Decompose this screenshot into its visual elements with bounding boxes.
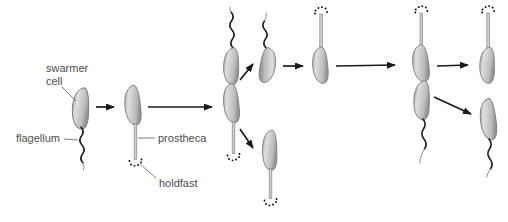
flagellum-tail xyxy=(83,163,84,170)
leader-flagellum xyxy=(64,139,78,140)
cell-body xyxy=(258,47,277,83)
label-prostheca: prostheca xyxy=(158,132,207,144)
predivisional-cell-stage xyxy=(222,7,240,161)
caulobacter-life-cycle-figure: swarmer cell flagellum prostheca holdfas… xyxy=(0,0,508,222)
attached-stalked-cell xyxy=(312,6,329,83)
flagellum-icon xyxy=(263,21,267,48)
callout-prostheca: prostheca xyxy=(138,132,207,144)
flagellum-icon xyxy=(230,12,234,48)
arrow-division2-swarmer xyxy=(434,97,471,114)
flagellum-icon xyxy=(488,139,492,169)
label-swarmer-cell-line1: swarmer xyxy=(46,62,89,74)
daughter-stalked-cell xyxy=(479,5,496,83)
flagellum-icon xyxy=(80,127,84,163)
cell-body xyxy=(71,87,91,130)
new-stalked-cell xyxy=(262,130,278,207)
flagellum-tail xyxy=(487,169,491,177)
leader-swarmer-cell xyxy=(62,87,76,101)
callout-flagellum: flagellum xyxy=(16,132,78,144)
arrow-division-stalked xyxy=(240,129,253,148)
cell-body xyxy=(479,47,496,84)
cell-body-top xyxy=(223,47,240,85)
arrow-division-swarmer xyxy=(240,64,253,80)
callout-holdfast: holdfast xyxy=(140,164,198,189)
prostheca-stalk xyxy=(420,13,423,46)
arrow-step-4 xyxy=(336,65,395,66)
cell-body xyxy=(312,47,329,84)
holdfast-icon xyxy=(314,6,328,14)
leader-holdfast xyxy=(140,164,156,178)
flagellum-icon xyxy=(422,119,426,149)
prostheca-stalk xyxy=(269,169,272,199)
holdfast-icon xyxy=(481,5,495,13)
prostheca-stalk xyxy=(134,124,137,160)
cell-body xyxy=(124,85,142,126)
prostheca-stalk xyxy=(320,14,323,48)
cell-body xyxy=(262,130,278,171)
prostheca-stalk xyxy=(487,13,490,48)
flagellum-tail xyxy=(230,7,231,12)
holdfast-icon xyxy=(414,5,428,13)
label-flagellum: flagellum xyxy=(16,132,60,144)
cell-body-bottom xyxy=(413,80,431,120)
daughter-swarmer-cell xyxy=(479,98,497,177)
stalked-cell-stage xyxy=(124,85,143,167)
holdfast-icon xyxy=(264,198,278,206)
life-cycle-diagram: swarmer cell flagellum prostheca holdfas… xyxy=(0,0,508,222)
label-holdfast: holdfast xyxy=(159,177,198,189)
cell-body xyxy=(479,98,497,140)
cell-body-top xyxy=(411,44,430,82)
released-swarmer-cell xyxy=(258,13,277,83)
flagellum-tail xyxy=(265,13,267,21)
predivisional-cell-stage-2 xyxy=(411,5,431,163)
cell-body-bottom xyxy=(222,83,240,124)
flagellum-tail xyxy=(420,149,425,163)
arrow-division2-stalked xyxy=(437,65,468,66)
holdfast-icon xyxy=(227,153,241,161)
prostheca-stalk xyxy=(232,122,235,154)
label-swarmer-cell-line2: cell xyxy=(46,75,63,87)
